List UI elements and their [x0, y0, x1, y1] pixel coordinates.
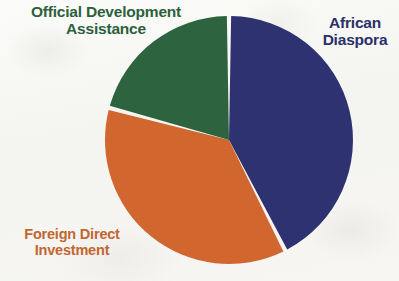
slice-label-fdi-line1: Foreign Direct [6, 226, 138, 242]
slice-label-foreign-direct-investment: Foreign Direct Investment [6, 226, 138, 258]
slice-label-fdi-line2: Investment [6, 242, 138, 258]
pie-slice-group [105, 16, 353, 264]
slice-label-oda-line2: Assistance [8, 20, 204, 37]
slice-label-diaspora-line2: Diaspora [312, 31, 398, 48]
slice-label-oda-line1: Official Development [8, 3, 204, 20]
slice-label-official-development-assistance: Official Development Assistance [8, 3, 204, 38]
pie-chart-figure: Official Development Assistance African … [0, 0, 399, 281]
slice-label-african-diaspora: African Diaspora [312, 14, 398, 49]
slice-label-diaspora-line1: African [312, 14, 398, 31]
